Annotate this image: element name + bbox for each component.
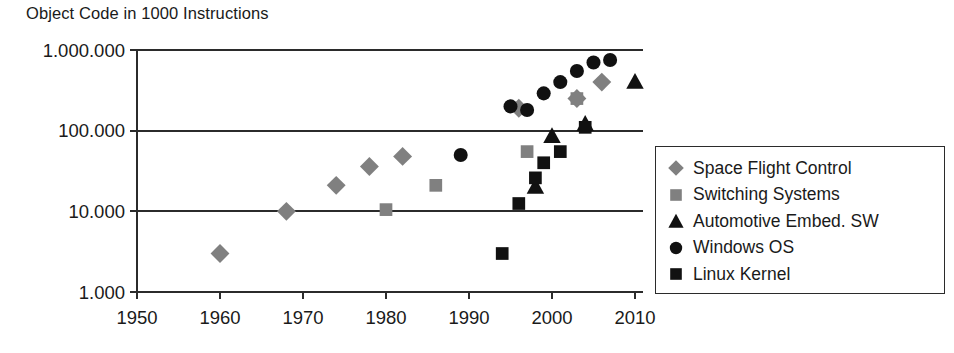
x-tick-label: 1970 [282,307,323,328]
series-linux-kernel [496,121,592,260]
data-point-circle [603,53,617,67]
legend-item-label: Linux Kernel [693,266,790,284]
data-point-square [554,145,567,158]
legend-item-label: Windows OS [693,239,794,257]
legend-item-label: Automotive Embed. SW [693,213,879,231]
series-windows-os [454,53,617,162]
data-point-diamond [393,147,412,166]
data-point-diamond [277,202,296,221]
y-axis-ticks-group: 1.000.000100.00010.0001.000 [43,40,137,303]
y-tick-label: 100.000 [58,120,125,141]
y-tick-label: 10.000 [68,201,125,222]
x-tick-label: 1980 [365,307,406,328]
data-point-square [529,172,542,185]
data-points-group [211,53,644,263]
triangle-marker-icon [666,211,686,231]
data-point-circle [454,148,468,162]
series-space-flight-control [211,73,612,263]
data-point-triangle [626,73,643,89]
data-point-diamond [327,176,346,195]
data-point-diamond [211,244,230,263]
data-point-diamond [360,157,379,176]
circle-marker-icon [666,238,686,258]
data-point-circle [570,64,584,78]
legend-item[interactable]: Linux Kernel [666,261,938,288]
data-point-square [537,156,550,169]
data-point-circle [586,55,600,69]
x-tick-label: 2010 [614,307,655,328]
square-marker-icon [666,264,686,284]
legend-item[interactable]: Windows OS [666,235,938,262]
data-point-square [380,203,393,216]
legend-item[interactable]: Switching Systems [666,182,938,209]
data-point-square [571,92,584,105]
data-point-diamond [592,73,611,92]
data-point-circle [537,86,551,100]
data-point-square [496,247,509,260]
x-axis-ticks-group: 1950196019701980199020002010 [116,292,655,328]
x-tick-label: 1950 [116,307,157,328]
data-point-circle [520,103,534,117]
data-point-square [579,121,592,134]
data-point-circle [553,75,567,89]
data-point-square [429,179,442,192]
legend-item-label: Space Flight Control [693,160,852,178]
legend: Space Flight ControlSwitching SystemsAut… [655,146,945,294]
y-tick-label: 1.000 [79,282,125,303]
data-point-circle [503,99,517,113]
legend-item-label: Switching Systems [693,186,840,204]
chart-container: Object Code in 1000 Instructions 1.000.0… [0,0,954,353]
data-point-triangle [543,127,560,143]
x-tick-label: 1990 [448,307,489,328]
square-marker-icon [666,185,686,205]
x-tick-label: 1960 [199,307,240,328]
diamond-marker-icon [666,158,686,178]
x-tick-label: 2000 [531,307,572,328]
series-switching-systems [380,92,584,216]
y-tick-label: 1.000.000 [43,40,125,61]
legend-item[interactable]: Space Flight Control [666,155,938,182]
data-point-square [512,197,525,210]
legend-item[interactable]: Automotive Embed. SW [666,208,938,235]
data-point-square [521,145,534,158]
